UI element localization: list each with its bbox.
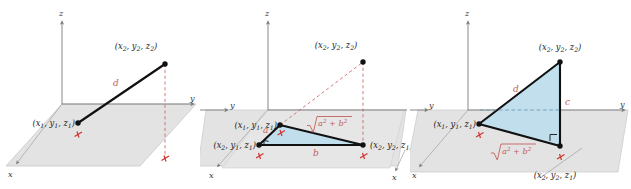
axis-label-x: x [209, 170, 214, 180]
segment-label-a: a [263, 125, 268, 135]
legs-a-b-panel: z y x x (x2, y2, z2) (x1, y1, z1) (x2, y… [200, 0, 410, 189]
axis-label-y: y [229, 100, 235, 110]
point-label-p2: (x2, y2, z2) [539, 42, 582, 53]
svg-text:a2 + b2: a2 + b2 [502, 146, 532, 156]
distance-d-panel: z y x (x2, y2, z2) (x1, y1, z1) d [0, 0, 200, 189]
point-p2-marker [162, 61, 167, 66]
segment-label-d: d [113, 78, 119, 88]
point-p2-marker [360, 59, 365, 64]
point-label-p2: (x2, y2, z2) [315, 40, 358, 51]
point-foot-marker [360, 142, 365, 147]
axis-label-y-left: y [428, 100, 434, 110]
tick-cross-p2-foot [162, 156, 170, 162]
segment-label-b: b [313, 148, 319, 158]
vertical-triangle-panel: z y y x (x2, y2, z2) (x1, y1, z1) (x2, y… [410, 0, 631, 189]
point-p2-marker [557, 59, 562, 64]
axis-label-x: x [412, 170, 417, 180]
segment-label-c: c [565, 97, 570, 107]
point-p1-marker [277, 122, 282, 127]
point-label-foot: (x2, y2, z1) [370, 140, 410, 151]
axis-label-y: y [189, 93, 195, 103]
axis-label-z: z [264, 8, 270, 18]
svg-text:a2 + b2: a2 + b2 [318, 118, 348, 128]
point-label-p2: (x2, y2, z2) [115, 41, 158, 52]
axis-label-y-right: y [619, 99, 625, 109]
axis-label-z: z [58, 8, 64, 18]
segment-label-d: d [513, 84, 519, 94]
point-corner-marker [256, 142, 261, 147]
point-p1-marker [476, 121, 481, 126]
axis-label-x: x [8, 169, 13, 179]
distance-formula-figure: z y x (x2, y2, z2) (x1, y1, z1) d [0, 0, 631, 189]
axis-label-z: z [464, 8, 470, 18]
point-p1-marker [75, 120, 80, 125]
axis-label-x-right: x [392, 172, 397, 182]
point-foot-marker [557, 143, 562, 148]
